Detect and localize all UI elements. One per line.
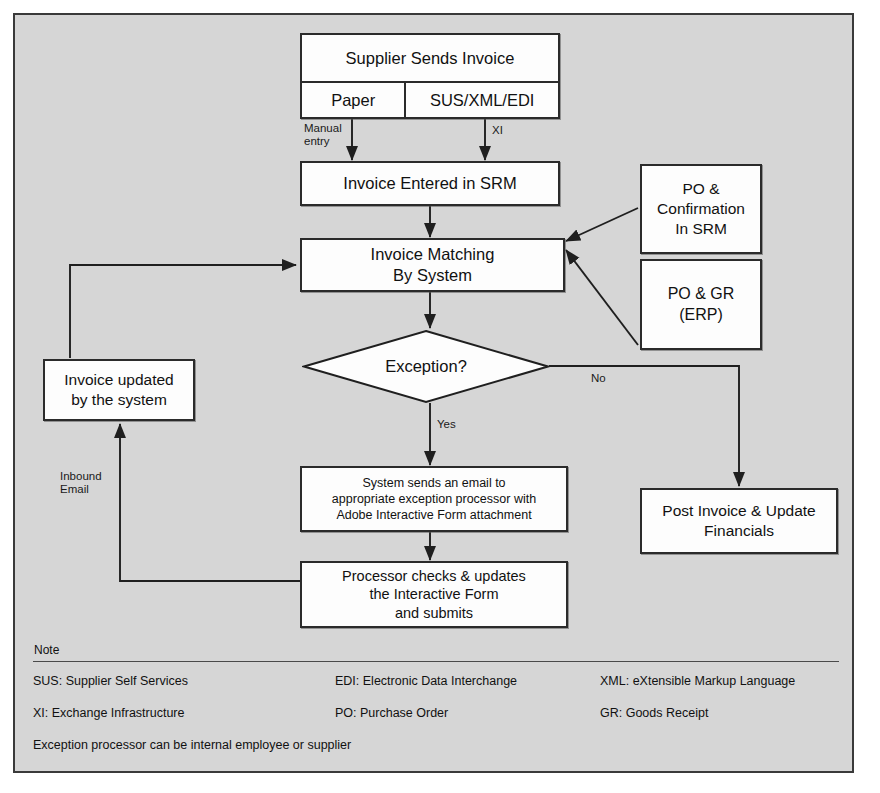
note-entry-po: PO: Purchase Order	[335, 706, 448, 720]
node-invoice-updated-by-the-system[interactable]: Invoice updated by the system	[43, 359, 195, 421]
processor-line1: Processor checks & updates	[342, 567, 526, 586]
channel-electronic-label: SUS/XML/EDI	[406, 83, 558, 117]
note-entry-xml: XML: eXtensible Markup Language	[600, 674, 795, 688]
invoice-matching-line2: By System	[393, 265, 472, 286]
supplier-header-label: Supplier Sends Invoice	[302, 35, 558, 83]
note-footer: Exception processor can be internal empl…	[33, 738, 351, 752]
note-entry-xi: XI: Exchange Infrastructure	[33, 706, 184, 720]
edge-label-manual-entry: Manual entry	[304, 122, 342, 148]
processor-line3: and submits	[395, 604, 473, 623]
invoice-updated-line1: Invoice updated	[64, 370, 173, 390]
invoice-updated-line2: by the system	[71, 390, 167, 410]
node-system-sends-email[interactable]: System sends an email to appropriate exc…	[300, 466, 568, 532]
system-email-line2: appropriate exception processor with	[332, 491, 536, 507]
channel-paper-label: Paper	[302, 83, 406, 117]
note-title: Note	[34, 643, 59, 657]
processor-line2: the Interactive Form	[370, 585, 499, 604]
po-confirmation-line2: Confirmation	[657, 199, 745, 219]
system-email-line3: Adobe Interactive Form attachment	[336, 507, 531, 523]
edge-label-yes: Yes	[437, 418, 456, 431]
node-post-invoice-update-financials[interactable]: Post Invoice & Update Financials	[640, 488, 838, 554]
note-divider	[33, 661, 839, 662]
edge-label-inbound-email: Inbound Email	[60, 470, 102, 496]
po-confirmation-line1: PO &	[682, 179, 719, 199]
node-po-and-gr-erp[interactable]: PO & GR (ERP)	[640, 259, 762, 350]
note-entry-gr: GR: Goods Receipt	[600, 706, 708, 720]
po-gr-line1: PO & GR	[668, 284, 735, 304]
edge-label-xi: XI	[492, 124, 503, 137]
node-invoice-entered-in-srm[interactable]: Invoice Entered in SRM	[300, 161, 560, 206]
note-entry-sus: SUS: Supplier Self Services	[33, 674, 188, 688]
post-invoice-line2: Financials	[704, 521, 774, 541]
node-invoice-matching-by-system[interactable]: Invoice Matching By System	[300, 238, 565, 292]
po-gr-line2: (ERP)	[679, 305, 723, 325]
flowchart-page: Supplier Sends Invoice Paper SUS/XML/EDI…	[0, 0, 880, 793]
po-confirmation-line3: In SRM	[675, 219, 727, 239]
exception-decision-label: Exception?	[385, 357, 467, 376]
note-entry-edi: EDI: Electronic Data Interchange	[335, 674, 517, 688]
post-invoice-line1: Post Invoice & Update	[662, 501, 815, 521]
system-email-line1: System sends an email to	[362, 475, 505, 491]
edge-label-no: No	[591, 372, 606, 385]
node-exception-decision[interactable]: Exception?	[302, 329, 550, 404]
node-po-and-confirmation-in-srm[interactable]: PO & Confirmation In SRM	[640, 164, 762, 254]
invoice-entered-label: Invoice Entered in SRM	[343, 173, 516, 194]
supplier-channels: Paper SUS/XML/EDI	[302, 83, 558, 117]
node-processor-checks-updates[interactable]: Processor checks & updates the Interacti…	[300, 561, 568, 628]
invoice-matching-line1: Invoice Matching	[371, 244, 495, 265]
node-supplier-sends-invoice[interactable]: Supplier Sends Invoice Paper SUS/XML/EDI	[300, 33, 560, 119]
